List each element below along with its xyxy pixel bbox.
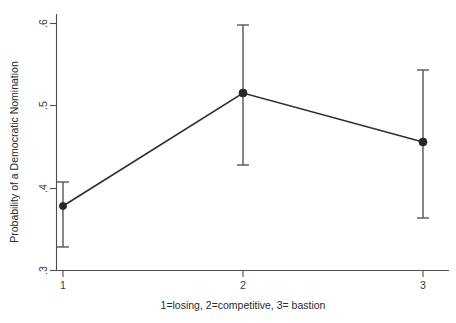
data-point-3 <box>419 138 427 146</box>
error-bars <box>57 25 429 247</box>
y-tick-label-05: .5 <box>37 101 49 110</box>
y-axis-ticks: .6 .5 .4 .3 <box>37 19 57 275</box>
error-bar-1 <box>57 182 69 247</box>
data-point-1 <box>59 202 66 209</box>
x-tick-label-3: 3 <box>420 279 426 291</box>
y-tick-label-06: .6 <box>37 19 49 28</box>
chart-figure: .6 .5 .4 .3 1 2 3 <box>0 0 456 323</box>
y-tick-label-03: .3 <box>37 266 49 275</box>
chart-plot-area: .6 .5 .4 .3 1 2 3 <box>0 0 456 323</box>
y-tick-label-04: .4 <box>37 184 49 193</box>
x-axis-ticks: 1 2 3 <box>60 271 426 292</box>
y-axis-title: Probability of a Democratic Nomination <box>8 61 20 243</box>
data-point-2 <box>239 89 247 97</box>
x-tick-label-2: 2 <box>240 279 246 291</box>
x-tick-label-1: 1 <box>60 279 66 291</box>
x-axis-title: 1=losing, 2=competitive, 3= bastion <box>161 299 326 311</box>
